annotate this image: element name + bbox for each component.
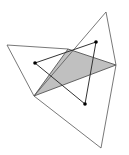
bottom-dot [83, 102, 87, 106]
geometry-diagram [0, 0, 129, 155]
left-dot [33, 61, 37, 65]
top-right-dot [94, 40, 98, 44]
